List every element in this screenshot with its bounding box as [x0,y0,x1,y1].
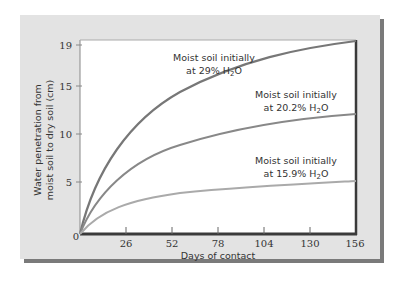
x-tick-104: 104 [254,238,273,249]
x-tick-52: 52 [166,238,179,249]
y-tick-10: 10 [59,129,72,140]
origin-label: 0 [73,231,79,242]
annotation-15-9-percent: Moist soil initially at 15.9% H2O [255,155,337,181]
y-tick-19: 19 [59,40,72,51]
x-tick-78: 78 [212,238,225,249]
y-tick-15: 15 [59,81,72,92]
chart-svg: 19 15 10 5 0 26 52 78 104 130 156 Days o… [0,0,399,296]
y-tick-5: 5 [66,177,72,188]
y-axis-label-line1: Water penetration from [32,84,43,196]
svg-text:Moist soil initially: Moist soil initially [255,89,337,100]
svg-text:Moist soil initially: Moist soil initially [255,155,337,166]
svg-text:Moist soil initially: Moist soil initially [173,52,255,63]
x-tick-156: 156 [345,238,364,249]
x-tick-130: 130 [300,238,319,249]
x-tick-26: 26 [120,238,133,249]
y-axis-label-line2: moist soil to dry soil (cm) [44,80,55,201]
x-axis-label: Days of contact [181,250,256,261]
annotation-20-2-percent: Moist soil initially at 20.2% H2O [255,89,337,115]
